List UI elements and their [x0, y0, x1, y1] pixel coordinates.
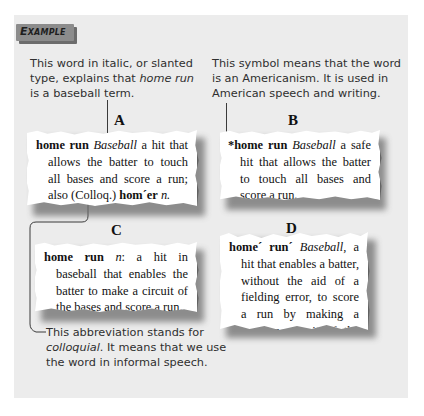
entry-b-headword: home run [234, 138, 287, 152]
entry-card-a: home run Baseball a hit that allows the … [27, 130, 197, 206]
entry-c-label: C [111, 222, 122, 239]
entry-a-field: Baseball [94, 138, 137, 152]
entry-a-variant: hom´er [119, 188, 158, 202]
entry-c-headword: home run [44, 250, 104, 264]
entry-d-field: Baseball [300, 240, 343, 254]
entry-b-field: Baseball [292, 138, 335, 152]
entry-a-pos: n. [161, 188, 170, 202]
entry-a-headword: home run [36, 138, 89, 152]
abbreviation-annotation: This abbreviation stands for colloquial.… [46, 325, 236, 370]
entry-card-b: *home run Baseball a safe hit that allow… [220, 130, 380, 200]
entry-card-c: home run n: a hit in baseball that enabl… [35, 242, 197, 312]
entry-d-headword: home´ run´ [229, 240, 293, 254]
entry-a-label: A [114, 112, 125, 129]
abbreviation-annotation-term: colloquial [46, 341, 100, 354]
entry-b-label: B [288, 112, 298, 129]
entry-card-d: home´ run´ Baseball, a hit that enables … [220, 232, 368, 330]
abbreviation-annotation-text: This abbreviation stands for [46, 326, 204, 339]
